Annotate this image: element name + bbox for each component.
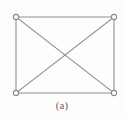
vertex-bottom-right — [111, 90, 116, 95]
edge-group — [16, 17, 114, 93]
figure-container: (a) — [0, 0, 124, 118]
figure-caption: (a) — [0, 99, 124, 112]
vertex-bottom-left — [13, 90, 18, 95]
vertex-top-left — [13, 14, 18, 19]
vertex-top-right — [111, 14, 116, 19]
